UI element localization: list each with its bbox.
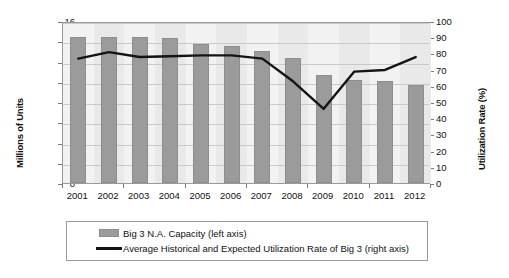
line-series: [63, 23, 431, 185]
x-tick-label: 2010: [336, 191, 370, 201]
right-tick-label: 90: [436, 33, 462, 43]
x-tick-label: 2004: [152, 191, 186, 201]
utilization-line: [78, 52, 415, 109]
x-tick-label: 2012: [398, 191, 432, 201]
chart-figure: Millions of Units Utilization Rate (%) 1…: [0, 0, 509, 278]
line-swatch-icon: [96, 247, 122, 250]
bar-swatch-icon: [99, 229, 119, 237]
chart-legend: Big 3 N.A. Capacity (left axis) Average …: [66, 221, 428, 261]
right-axis-title: Utilization Rate (%): [476, 38, 487, 170]
right-tick-label: 50: [436, 98, 462, 108]
legend-label-utilization: Average Historical and Expected Utilizat…: [123, 243, 409, 254]
x-tick-label: 2009: [306, 191, 340, 201]
x-tick-label: 2008: [275, 191, 309, 201]
left-axis-title: Millions of Units: [14, 38, 25, 168]
x-tick-label: 2007: [244, 191, 278, 201]
right-tick-label: 40: [436, 114, 462, 124]
plot-area: [62, 22, 430, 184]
right-tick-label: 100: [436, 17, 462, 27]
x-tick-label: 2003: [122, 191, 156, 201]
x-tick-label: 2005: [183, 191, 217, 201]
right-tick-label: 80: [436, 49, 462, 59]
legend-label-capacity: Big 3 N.A. Capacity (left axis): [123, 228, 247, 239]
x-tick-label: 2001: [60, 191, 94, 201]
right-tick-label: 0: [436, 179, 462, 189]
x-tick-label: 2006: [214, 191, 248, 201]
right-tick-label: 20: [436, 147, 462, 157]
right-tick-label: 30: [436, 130, 462, 140]
legend-item-capacity: Big 3 N.A. Capacity (left axis): [73, 226, 421, 240]
legend-item-utilization: Average Historical and Expected Utilizat…: [73, 241, 421, 255]
x-tick-label: 2002: [91, 191, 125, 201]
right-tick-label: 10: [436, 163, 462, 173]
right-tick-label: 60: [436, 82, 462, 92]
x-tick-label: 2011: [367, 191, 401, 201]
right-tick-label: 70: [436, 66, 462, 76]
